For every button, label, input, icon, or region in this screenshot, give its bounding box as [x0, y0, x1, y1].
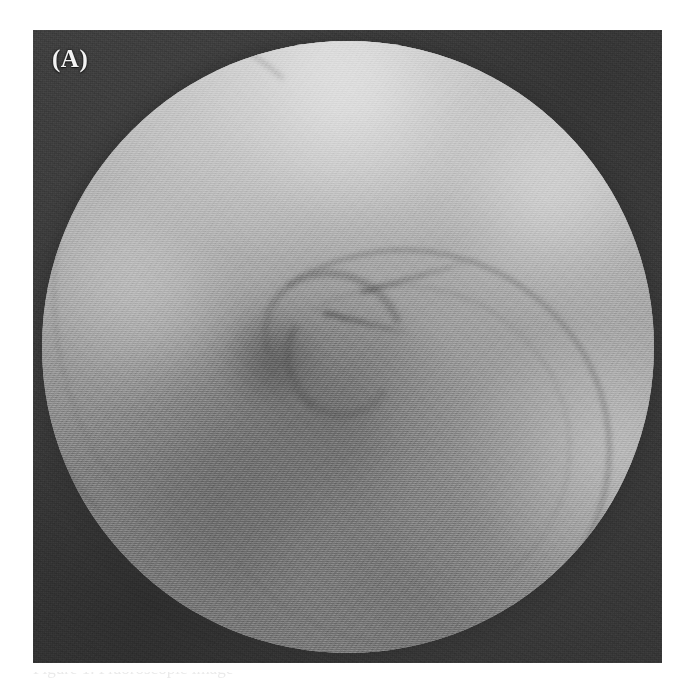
figure-page: (A) Figure 1. Fluoroscopic image — [0, 0, 694, 691]
circular-field-of-view — [42, 41, 654, 653]
figure-caption-clipped: Figure 1. Fluoroscopic image — [33, 672, 662, 691]
bright-upper-right-blob — [445, 89, 653, 285]
panel-label: (A) — [52, 46, 88, 71]
figure-caption-text: Figure 1. Fluoroscopic image — [33, 672, 233, 678]
dense-focus — [225, 310, 323, 414]
fluoroscopic-radiograph-image: (A) — [33, 30, 662, 663]
